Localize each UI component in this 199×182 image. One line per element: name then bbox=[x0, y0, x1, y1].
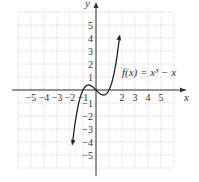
y-axis-label: y bbox=[84, 0, 90, 9]
function-graph: −5−4−3−2−1234554321−1−2−3−4−5 f(x) = x³ … bbox=[0, 0, 199, 182]
curve-arrow-up-icon bbox=[117, 35, 122, 41]
x-tick-label: 4 bbox=[146, 92, 151, 103]
y-tick-label: 2 bbox=[88, 59, 93, 70]
x-tick-label: −3 bbox=[52, 92, 63, 103]
y-tick-label: −1 bbox=[82, 98, 93, 109]
x-tick-label: −2 bbox=[65, 92, 76, 103]
x-tick-label: 5 bbox=[159, 92, 164, 103]
y-tick-label: −4 bbox=[82, 137, 93, 148]
y-axis-arrow-icon bbox=[94, 2, 99, 8]
curve-arrow-down-icon bbox=[71, 139, 76, 145]
y-tick-label: −5 bbox=[82, 150, 93, 161]
axes bbox=[12, 2, 186, 176]
y-tick-label: 3 bbox=[88, 46, 93, 57]
y-tick-label: 1 bbox=[88, 72, 93, 83]
plot-area: −5−4−3−2−1234554321−1−2−3−4−5 f(x) = x³ … bbox=[0, 0, 199, 182]
y-tick-label: −2 bbox=[82, 111, 93, 122]
y-tick-label: 4 bbox=[88, 33, 93, 44]
x-tick-label: 3 bbox=[133, 92, 138, 103]
x-tick-label: −5 bbox=[26, 92, 37, 103]
x-axis-label: x bbox=[183, 91, 189, 103]
function-label: f(x) = x³ − x bbox=[122, 66, 176, 79]
y-tick-label: 5 bbox=[88, 20, 93, 31]
x-tick-label: 2 bbox=[120, 92, 125, 103]
y-tick-label: −3 bbox=[82, 124, 93, 135]
x-tick-label: −4 bbox=[39, 92, 50, 103]
